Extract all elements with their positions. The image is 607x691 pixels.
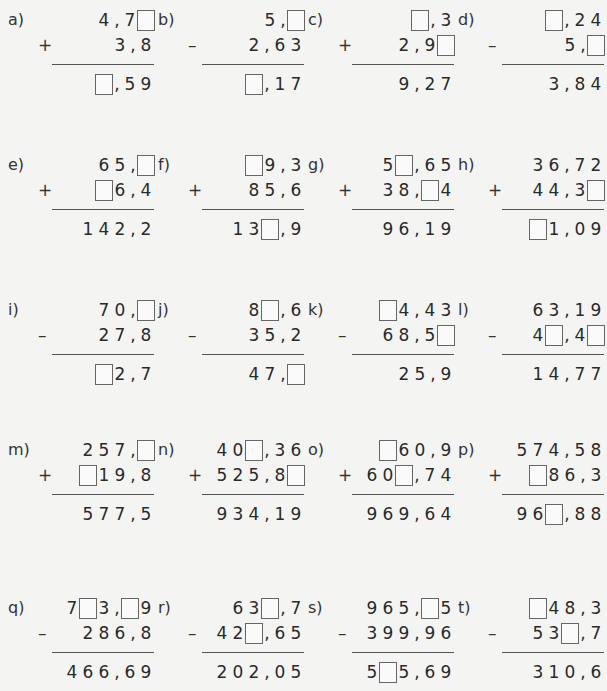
digit: 6: [530, 502, 546, 526]
digit: 8: [272, 463, 288, 487]
top-operand: 5,: [262, 8, 304, 32]
digit: 9: [138, 596, 154, 620]
result: 55,69: [364, 660, 454, 684]
answer-box[interactable]: [437, 325, 455, 346]
bottom-operand: 35,2: [246, 323, 304, 347]
answer-box[interactable]: [245, 440, 263, 461]
decimal-comma: ,: [412, 217, 422, 241]
answer-box[interactable]: [245, 155, 263, 176]
digit: 3: [438, 298, 454, 322]
decimal-comma: ,: [112, 8, 122, 32]
answer-box[interactable]: [95, 74, 113, 95]
answer-box[interactable]: [545, 10, 563, 31]
answer-box[interactable]: [545, 325, 563, 346]
digit: 4: [246, 502, 262, 526]
answer-box[interactable]: [395, 155, 413, 176]
digit: 6: [422, 153, 438, 177]
digit: 2: [112, 217, 128, 241]
answer-box[interactable]: [561, 623, 579, 644]
answer-box[interactable]: [411, 10, 429, 31]
decimal-comma: ,: [562, 72, 572, 96]
answer-box[interactable]: [287, 10, 305, 31]
answer-box[interactable]: [379, 440, 397, 461]
answer-box[interactable]: [287, 465, 305, 486]
digit: 9: [138, 72, 154, 96]
answer-box[interactable]: [379, 300, 397, 321]
digit: 2: [246, 660, 262, 684]
decimal-comma: ,: [562, 178, 572, 202]
answer-box[interactable]: [379, 662, 397, 683]
digit: 1: [422, 217, 438, 241]
bottom-operand: 286,8: [80, 621, 154, 645]
answer-box[interactable]: [245, 74, 263, 95]
digit: 4: [572, 323, 588, 347]
digit: 6: [112, 178, 128, 202]
decimal-comma: ,: [428, 8, 438, 32]
answer-box[interactable]: [529, 465, 547, 486]
answer-box[interactable]: [95, 180, 113, 201]
sum-line: [52, 652, 154, 653]
answer-box[interactable]: [261, 598, 279, 619]
digit: 9: [214, 502, 230, 526]
answer-box[interactable]: [245, 623, 263, 644]
problem-q: q)–73,9286,8466,69: [8, 590, 154, 691]
digit: 6: [422, 502, 438, 526]
digit: 7: [572, 153, 588, 177]
answer-box[interactable]: [121, 598, 139, 619]
digit: 4: [246, 362, 262, 386]
answer-box[interactable]: [545, 504, 563, 525]
digit: 7: [572, 362, 588, 386]
answer-box[interactable]: [529, 598, 547, 619]
problem-label: n): [158, 440, 174, 459]
digit: 6: [438, 621, 454, 645]
answer-box[interactable]: [137, 440, 155, 461]
digit: 6: [96, 660, 112, 684]
answer-box[interactable]: [137, 10, 155, 31]
answer-box[interactable]: [137, 155, 155, 176]
decimal-comma: ,: [262, 502, 272, 526]
result: 1,09: [530, 217, 604, 241]
answer-box[interactable]: [137, 300, 155, 321]
digit: 1: [272, 72, 288, 96]
sum-line: [502, 354, 604, 355]
problem-s: s)–965,5399,9655,69: [308, 590, 454, 691]
digit: 8: [396, 323, 412, 347]
sum-line: [52, 209, 154, 210]
answer-box[interactable]: [287, 364, 305, 385]
plus-operator: +: [488, 465, 502, 485]
bottom-operand: 5,: [562, 33, 604, 57]
digit: 1: [80, 217, 96, 241]
answer-box[interactable]: [79, 465, 97, 486]
answer-box[interactable]: [261, 300, 279, 321]
problem-label: r): [158, 598, 171, 617]
digit: 9: [422, 621, 438, 645]
sum-line: [202, 652, 304, 653]
answer-box[interactable]: [421, 598, 439, 619]
digit: 6: [272, 33, 288, 57]
digit: 7: [122, 8, 138, 32]
digit: 9: [380, 621, 396, 645]
digit: 8: [138, 621, 154, 645]
answer-box[interactable]: [261, 219, 279, 240]
answer-box[interactable]: [79, 598, 97, 619]
answer-box[interactable]: [395, 465, 413, 486]
digit: 8: [246, 178, 262, 202]
digit: 7: [138, 362, 154, 386]
digit: 3: [246, 596, 262, 620]
digit: 6: [396, 217, 412, 241]
answer-box[interactable]: [587, 180, 605, 201]
digit: 8: [96, 621, 112, 645]
answer-box[interactable]: [587, 325, 605, 346]
digit: 0: [112, 298, 128, 322]
answer-box[interactable]: [421, 180, 439, 201]
digit: 6: [230, 596, 246, 620]
answer-box[interactable]: [529, 219, 547, 240]
answer-box[interactable]: [437, 35, 455, 56]
answer-box[interactable]: [587, 35, 605, 56]
digit: 1: [572, 298, 588, 322]
digit: 2: [572, 8, 588, 32]
answer-box[interactable]: [95, 364, 113, 385]
problem-k: k)–4,4368,525,9: [308, 292, 454, 402]
digit: 3: [572, 178, 588, 202]
bottom-operand: 3,8: [112, 33, 154, 57]
